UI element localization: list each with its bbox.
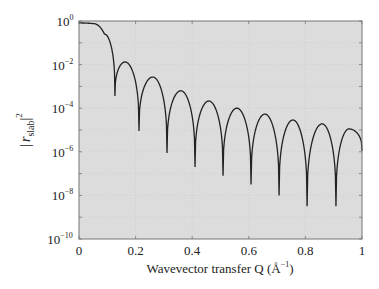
- y-tick-label: 10−8: [52, 187, 74, 203]
- y-tick-label: 10−6: [52, 144, 74, 160]
- x-tick-label: 0: [76, 243, 83, 258]
- y-tick-label: 100: [56, 13, 73, 29]
- y-tick-label: 10−2: [52, 57, 74, 73]
- x-tick-label: 0.8: [297, 243, 313, 258]
- y-tick-label: 10−10: [47, 231, 73, 247]
- reflectivity-chart: 00.20.40.60.81 10010−210−410−610−810−10 …: [0, 0, 379, 289]
- svg-text:|rslab|2: |rslab|2: [14, 113, 36, 147]
- y-tick-labels: 10010−210−410−610−810−10: [47, 13, 73, 247]
- x-tick-label: 0.2: [127, 243, 143, 258]
- x-tick-labels: 00.20.40.60.81: [76, 243, 366, 258]
- x-tick-label: 0.6: [241, 243, 258, 258]
- x-tick-label: 1: [359, 243, 366, 258]
- y-tick-label: 10−4: [52, 100, 74, 116]
- x-tick-label: 0.4: [184, 243, 201, 258]
- y-axis-label: |rslab|2: [14, 113, 36, 147]
- x-axis-label: Wavevector transfer Q (Å−1): [146, 260, 293, 276]
